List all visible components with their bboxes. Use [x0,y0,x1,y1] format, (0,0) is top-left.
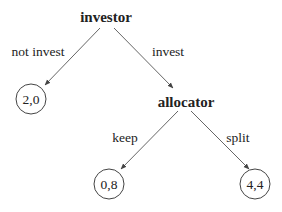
payoff-label: 2,0 [23,92,40,107]
leaf-not-invest: 2,0 [16,84,46,114]
edge-label-split: split [226,130,250,145]
edge-label-invest: invest [152,44,184,59]
leaf-keep: 0,8 [94,169,124,199]
leaf-split: 4,4 [240,169,270,199]
node-investor: investor [80,9,132,25]
payoff-label: 4,4 [247,177,264,192]
payoff-label: 0,8 [101,177,118,192]
game-tree-diagram: investor not invest invest 2,0 allocator… [0,0,282,212]
edge-label-not-invest: not invest [12,44,65,59]
edge-label-keep: keep [112,130,138,145]
node-allocator: allocator [158,94,215,110]
